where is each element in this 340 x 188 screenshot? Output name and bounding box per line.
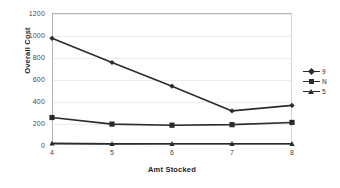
data-point-marker bbox=[109, 60, 114, 65]
series-5 bbox=[49, 141, 294, 146]
x-axis-tick-label: 8 bbox=[290, 149, 294, 156]
data-point-marker bbox=[49, 115, 54, 120]
data-point-marker bbox=[289, 103, 294, 108]
y-axis-tick-label: 400 bbox=[5, 98, 45, 105]
legend-item-label: 9 bbox=[322, 67, 326, 76]
x-axis-tick-label: 7 bbox=[230, 149, 234, 156]
x-axis-tick: 7 bbox=[220, 149, 244, 156]
x-axis-tick-label: 4 bbox=[50, 149, 54, 156]
chart-legend: 9 N 5 bbox=[303, 66, 339, 96]
x-axis-tick: 5 bbox=[100, 149, 124, 156]
x-axis-tick-label: 5 bbox=[110, 149, 114, 156]
data-point-marker bbox=[229, 108, 234, 113]
y-axis-tick: 400 bbox=[5, 101, 45, 108]
y-axis-title: Overall Cost bbox=[23, 6, 32, 96]
series-9 bbox=[49, 36, 294, 114]
legend-item[interactable]: 5 bbox=[303, 86, 339, 96]
x-axis-tick: 4 bbox=[40, 149, 64, 156]
line-chart: 1200 1000 800 600 400 200 0 Overall Cost… bbox=[0, 0, 340, 188]
series-layer bbox=[52, 13, 292, 145]
y-axis-tick-label: 200 bbox=[5, 120, 45, 127]
y-axis-tick: 0 bbox=[5, 145, 45, 152]
legend-item-label: N bbox=[322, 77, 327, 86]
data-point-marker bbox=[289, 120, 294, 125]
x-axis-tick: 6 bbox=[160, 149, 184, 156]
data-point-marker bbox=[169, 123, 174, 128]
legend-item[interactable]: 9 bbox=[303, 66, 339, 76]
legend-marker-diamond-icon bbox=[303, 67, 320, 76]
legend-item-label: 5 bbox=[322, 87, 326, 96]
data-point-marker bbox=[49, 36, 54, 41]
x-axis-title: Amt Stocked bbox=[52, 165, 292, 174]
series-line bbox=[52, 38, 292, 111]
series-N bbox=[49, 115, 294, 128]
legend-marker-triangle-icon bbox=[303, 87, 320, 96]
data-point-marker bbox=[109, 122, 114, 127]
y-axis-tick: 200 bbox=[5, 123, 45, 130]
data-point-marker bbox=[169, 84, 174, 89]
x-axis-tick: 8 bbox=[280, 149, 304, 156]
data-point-marker bbox=[229, 122, 234, 127]
legend-marker-square-icon bbox=[303, 77, 320, 86]
legend-item[interactable]: N bbox=[303, 76, 339, 86]
x-axis-tick-label: 6 bbox=[170, 149, 174, 156]
y-axis-tick-label: 0 bbox=[5, 142, 45, 149]
